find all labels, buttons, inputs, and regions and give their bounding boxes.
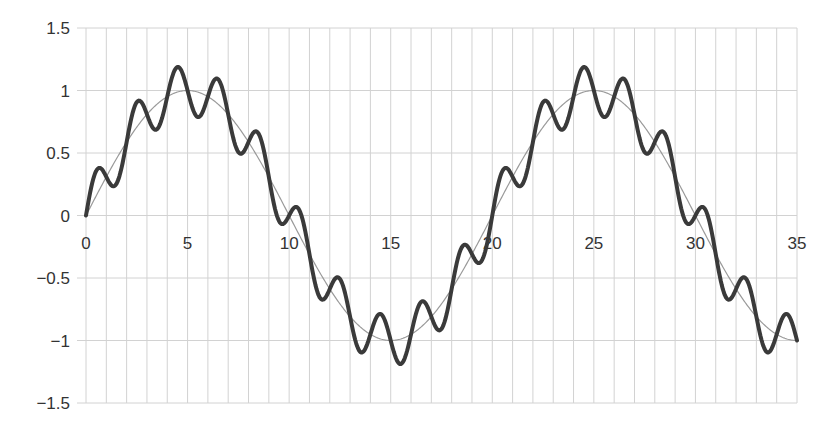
x-tick-label: 25 [584, 234, 603, 253]
y-axis-labels: 1.510.50−0.5−1−1.5 [36, 19, 70, 413]
y-tick-label: −0.5 [36, 269, 70, 288]
x-tick-label: 10 [280, 234, 299, 253]
sine-wave-chart: 1.510.50−0.5−1−1.5 05101520253035 [0, 0, 838, 438]
y-tick-label: 0.5 [46, 144, 70, 163]
y-tick-label: −1 [51, 332, 70, 351]
y-tick-label: −1.5 [36, 394, 70, 413]
y-tick-label: 0 [61, 207, 70, 226]
x-tick-label: 30 [686, 234, 705, 253]
x-tick-label: 0 [81, 234, 90, 253]
x-tick-label: 15 [381, 234, 400, 253]
y-tick-label: 1.5 [46, 19, 70, 38]
y-tick-label: 1 [61, 82, 70, 101]
x-tick-label: 35 [788, 234, 807, 253]
x-axis-labels: 05101520253035 [81, 234, 806, 253]
x-tick-label: 5 [183, 234, 192, 253]
